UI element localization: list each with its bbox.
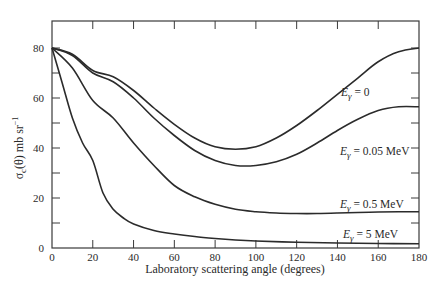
- series-label-2: Eγ = 0.5 MeV: [339, 198, 404, 213]
- series-line-0: [52, 48, 419, 149]
- x-tick-label: 160: [370, 251, 387, 263]
- x-tick-label: 40: [128, 251, 140, 263]
- y-tick-label: 0: [39, 242, 45, 254]
- x-tick-label: 140: [329, 251, 346, 263]
- x-tick-label: 20: [87, 251, 99, 263]
- x-tick-label: 0: [49, 251, 55, 263]
- y-tick-label: 20: [33, 192, 45, 204]
- y-tick-label: 40: [33, 142, 45, 154]
- y-tick-label: 60: [33, 92, 45, 104]
- chart: 020406080100120140160180020406080 Eγ = 0…: [0, 0, 444, 290]
- plot-border: [52, 21, 419, 248]
- y-axis-title-text: σc(θ) mb sr−1: [11, 117, 28, 180]
- x-axis-title: Laboratory scattering angle (degrees): [145, 262, 325, 276]
- y-tick-label: 80: [33, 42, 45, 54]
- axis-ticks: [52, 21, 419, 248]
- series-label-1: Eγ = 0.05 MeV: [339, 145, 410, 160]
- x-tick-label: 180: [411, 251, 428, 263]
- series-label-3: Eγ = 5 MeV: [342, 228, 399, 243]
- series-labels: Eγ = 0Eγ = 0.05 MeVEγ = 0.5 MeVEγ = 5 Me…: [339, 86, 410, 243]
- series-label-0: Eγ = 0: [340, 86, 370, 101]
- y-axis-title: σc(θ) mb sr−1: [11, 117, 28, 180]
- plot-frame: [52, 21, 419, 248]
